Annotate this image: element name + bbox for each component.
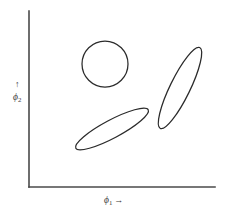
steep-tilted-ellipse-shape: [151, 43, 208, 133]
y-axis-label-text: ϕ2: [13, 93, 21, 104]
shallow-tilted-ellipse-shape: [72, 102, 153, 156]
shapes-group: [72, 41, 209, 156]
x-axis-label: ϕ1→: [104, 196, 123, 207]
y-axis-label: ↑ ϕ2: [13, 80, 21, 104]
axes-group: [29, 11, 215, 187]
y-axis-subscript: 2: [18, 96, 21, 103]
arrow-right-icon: →: [112, 195, 123, 205]
isotropic-circle-shape: [82, 41, 128, 87]
arrow-up-icon: ↑: [13, 80, 21, 89]
figure-canvas: ϕ1→ ↑ ϕ2: [0, 0, 226, 221]
plot-svg: [0, 0, 226, 221]
